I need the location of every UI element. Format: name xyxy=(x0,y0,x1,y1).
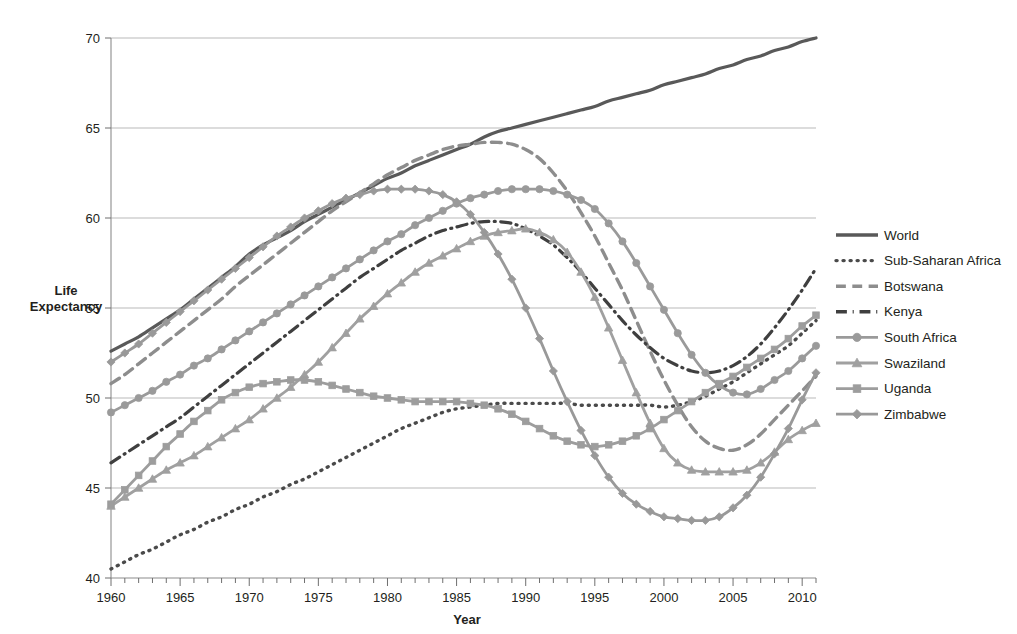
data-point-marker-diamond xyxy=(687,516,695,524)
data-point-marker-circle xyxy=(107,409,114,416)
legend-item-zimbabwe[interactable]: Zimbabwe xyxy=(836,407,946,422)
x-tick-label: 1985 xyxy=(442,590,471,605)
data-point-marker-circle xyxy=(259,319,266,326)
data-point-marker-square xyxy=(135,472,142,479)
legend-label: South Africa xyxy=(884,330,957,345)
data-point-marker-circle xyxy=(757,385,764,392)
data-point-marker-circle xyxy=(647,283,654,290)
x-tick-label: 1990 xyxy=(511,590,540,605)
series-line xyxy=(111,321,816,569)
data-point-marker-circle xyxy=(246,328,253,335)
data-point-marker-circle xyxy=(329,274,336,281)
data-point-marker-square xyxy=(439,398,446,405)
data-point-marker-diamond xyxy=(852,409,861,418)
data-point-marker-circle xyxy=(232,337,239,344)
data-point-marker-circle xyxy=(412,222,419,229)
life-expectancy-chart: 40455055606570 1960196519701975198019851… xyxy=(0,0,1017,634)
x-tick-label: 2000 xyxy=(649,590,678,605)
data-point-marker-square xyxy=(813,312,820,319)
data-point-marker-square xyxy=(578,442,585,449)
data-point-marker-diamond xyxy=(674,515,682,523)
legend-item-swaziland[interactable]: Swaziland xyxy=(836,356,946,371)
data-point-marker-square xyxy=(619,438,626,445)
data-point-marker-circle xyxy=(619,238,626,245)
data-point-marker-square xyxy=(246,384,253,391)
data-point-marker-square xyxy=(453,398,460,405)
data-point-marker-circle xyxy=(356,256,363,263)
data-point-marker-square xyxy=(688,398,695,405)
data-point-marker-square xyxy=(315,379,322,386)
data-point-marker-square xyxy=(509,411,516,418)
data-point-marker-circle xyxy=(771,376,778,383)
data-point-marker-square xyxy=(702,389,709,396)
data-point-marker-diamond xyxy=(383,185,391,193)
legend-item-south-africa[interactable]: South Africa xyxy=(836,330,957,345)
data-point-marker-square xyxy=(757,355,764,362)
data-point-marker-circle xyxy=(550,187,557,194)
legend-item-sub-saharan-africa[interactable]: Sub-Saharan Africa xyxy=(836,253,1002,268)
data-point-marker-square xyxy=(536,425,543,432)
series-line xyxy=(111,189,816,412)
data-point-marker-square xyxy=(853,385,861,393)
data-point-marker-circle xyxy=(494,187,501,194)
data-point-marker-circle xyxy=(536,186,543,193)
data-point-marker-diamond xyxy=(425,187,433,195)
data-point-marker-square xyxy=(564,438,571,445)
series-uganda xyxy=(108,312,820,508)
x-tick-label: 2005 xyxy=(719,590,748,605)
data-point-marker-circle xyxy=(273,310,280,317)
data-point-marker-square xyxy=(674,407,681,414)
data-point-marker-circle xyxy=(481,191,488,198)
data-point-marker-diamond xyxy=(701,516,709,524)
data-point-marker-circle xyxy=(729,389,736,396)
series-south-africa xyxy=(107,186,819,416)
data-point-marker-square xyxy=(481,402,488,409)
y-tick-label: 70 xyxy=(86,31,100,46)
data-point-marker-circle xyxy=(508,186,515,193)
chart-canvas: 40455055606570 1960196519701975198019851… xyxy=(0,0,1017,634)
data-point-marker-square xyxy=(426,398,433,405)
series-markers xyxy=(107,225,820,510)
data-point-marker-triangle xyxy=(604,324,612,331)
legend-item-botswana[interactable]: Botswana xyxy=(836,279,944,294)
legend-label: Uganda xyxy=(884,381,932,396)
series-line xyxy=(111,221,816,462)
data-point-marker-circle xyxy=(812,342,819,349)
x-tick-label: 1970 xyxy=(235,590,264,605)
legend-item-kenya[interactable]: Kenya xyxy=(836,304,923,319)
legend-label: World xyxy=(884,228,919,243)
data-point-marker-circle xyxy=(315,283,322,290)
data-point-marker-square xyxy=(633,433,640,440)
tick-marks xyxy=(105,38,816,586)
data-point-marker-diamond xyxy=(411,185,419,193)
data-point-marker-square xyxy=(357,389,364,396)
legend-item-world[interactable]: World xyxy=(836,228,919,243)
data-point-marker-square xyxy=(744,364,751,371)
data-point-marker-circle xyxy=(439,207,446,214)
legend-label: Kenya xyxy=(884,304,923,319)
data-series-group xyxy=(107,38,820,569)
y-tick-label: 60 xyxy=(86,211,100,226)
legend-label: Swaziland xyxy=(884,356,946,371)
data-point-marker-circle xyxy=(743,391,750,398)
data-point-marker-circle xyxy=(398,231,405,238)
data-point-marker-circle xyxy=(163,378,170,385)
data-point-marker-square xyxy=(522,418,529,425)
data-point-marker-square xyxy=(122,487,129,494)
data-point-marker-square xyxy=(412,398,419,405)
data-point-marker-circle xyxy=(204,355,211,362)
data-point-marker-square xyxy=(550,433,557,440)
data-point-marker-square xyxy=(108,501,115,508)
data-point-marker-circle xyxy=(425,214,432,221)
series-sub-saharan-africa xyxy=(111,321,816,569)
data-point-marker-diamond xyxy=(439,191,447,199)
data-point-marker-circle xyxy=(853,333,861,341)
x-axis-title: Year xyxy=(453,612,480,627)
data-point-marker-square xyxy=(218,397,225,404)
data-point-marker-circle xyxy=(121,402,128,409)
data-point-marker-circle xyxy=(301,292,308,299)
data-point-marker-triangle xyxy=(812,419,820,426)
data-point-marker-square xyxy=(232,389,239,396)
data-point-marker-circle xyxy=(799,355,806,362)
legend-item-uganda[interactable]: Uganda xyxy=(836,381,932,396)
